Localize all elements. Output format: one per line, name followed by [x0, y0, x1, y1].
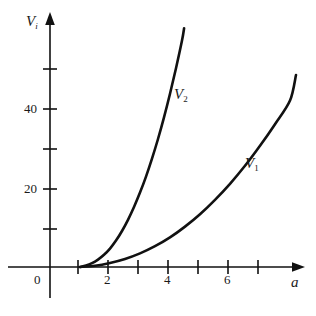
curve-label-v2-subscript: 2	[183, 94, 188, 104]
x-tick-label-2: 2	[104, 273, 111, 286]
y-axis-arrowhead	[45, 12, 55, 25]
data-curves	[80, 28, 296, 267]
x-axis-title: a	[291, 275, 299, 290]
y-axis-title: Vi	[26, 14, 38, 29]
curve-label-v2-main: V	[174, 86, 183, 102]
origin-tick-label: 0	[34, 273, 41, 286]
curve-v2	[80, 28, 184, 267]
y-tick-label-40: 40	[24, 102, 37, 115]
x-tick-label-4: 4	[164, 273, 171, 286]
x-tick-label-6: 6	[224, 273, 231, 286]
chart-figure: Vi a V2 V1 0 2 4 6 20 40	[0, 0, 316, 316]
curve-v1	[80, 75, 296, 267]
y-axis-title-main: V	[26, 13, 35, 29]
plot-canvas	[0, 0, 316, 316]
curve-label-v1: V1	[245, 156, 259, 171]
axes-group	[8, 12, 305, 298]
curve-label-v2: V2	[174, 87, 188, 102]
curve-label-v1-subscript: 1	[254, 163, 259, 173]
x-axis-arrowhead	[292, 262, 305, 272]
y-tick-label-20: 20	[24, 182, 37, 195]
curve-label-v1-main: V	[245, 155, 254, 171]
y-axis-title-subscript: i	[35, 21, 38, 31]
